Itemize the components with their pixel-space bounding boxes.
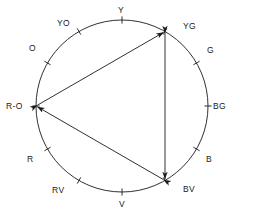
hue-tick-b	[193, 147, 199, 151]
hue-tick-rv	[77, 177, 81, 183]
hue-tick-yo	[77, 28, 81, 34]
color-wheel-diagram: YYGGBGBBVVRVRR-OOYO	[0, 0, 253, 217]
hue-label-g: G	[207, 46, 214, 55]
hue-label-r-o: R-O	[6, 102, 23, 111]
hue-label-bg: BG	[213, 102, 226, 111]
hue-label-yg: YG	[183, 22, 196, 31]
triad-triangle	[37, 32, 165, 179]
hue-label-v: V	[119, 200, 125, 209]
hue-label-o: O	[29, 44, 36, 53]
triad-edge-r-o-to-yg	[37, 32, 163, 105]
hue-label-y: Y	[118, 6, 124, 15]
hue-label-b: B	[206, 155, 212, 164]
hue-label-r: R	[27, 155, 34, 164]
hue-tick-marks	[32, 16, 211, 195]
hue-label-rv: RV	[52, 186, 64, 195]
triad-edge-bv-to-r-o	[37, 107, 163, 180]
hue-label-yo: YO	[57, 19, 70, 28]
hue-label-bv: BV	[183, 185, 195, 194]
hue-tick-r	[44, 147, 50, 151]
color-wheel-circle	[36, 20, 208, 192]
hue-tick-g	[193, 61, 199, 65]
hue-tick-o	[44, 61, 50, 65]
